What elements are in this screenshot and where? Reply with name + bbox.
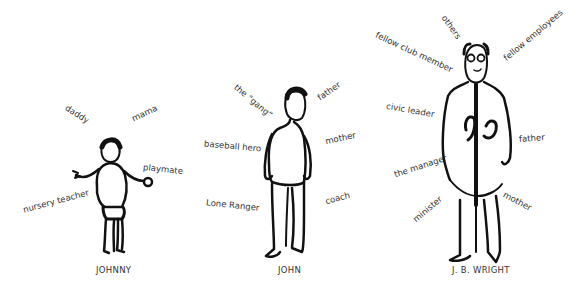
caption-jb-wright: J. B. WRIGHT [452,265,510,275]
caption-john: JOHN [278,265,301,275]
label-daddy: daddy [63,103,91,125]
label-mama: mama [130,103,159,123]
label-civic-leader: civic leader [386,101,436,119]
label-others: others [440,13,464,41]
john-illustration [260,84,335,264]
jb-wright-illustration [440,40,525,265]
caption-johnny: JOHNNY [96,265,131,275]
johnny-illustration [70,135,170,260]
label-lone-ranger: Lone Ranger [206,197,260,213]
label-baseball-hero: baseball hero [204,139,262,154]
